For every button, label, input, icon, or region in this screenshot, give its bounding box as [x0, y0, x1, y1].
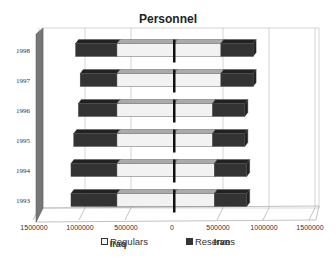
bar-iran-reserves-top	[214, 160, 249, 164]
bar-iran-regulars-top	[174, 70, 224, 74]
bar-iran-reserves	[214, 164, 246, 177]
bar-iran-regulars-top	[174, 160, 217, 164]
x-tick-label: 0	[170, 224, 174, 231]
center-axis-segment	[173, 100, 176, 123]
bar-iran-reserves	[221, 74, 253, 87]
center-axis-segment	[173, 130, 176, 153]
x-tick-label: 500000	[114, 224, 137, 231]
bar-iraq-regulars-top	[117, 70, 177, 74]
center-axis-segment	[173, 160, 176, 183]
x-tick-label: 1500000	[296, 224, 323, 231]
bar-iran-reserves-top	[213, 130, 248, 134]
bar-iraq-reserves	[71, 164, 117, 177]
bar-iran-reserves	[214, 194, 246, 207]
bar-iran-regulars	[174, 164, 214, 177]
center-axis-segment	[173, 40, 176, 63]
bar-iraq-regulars-top	[117, 160, 177, 164]
year-label: 1994	[16, 167, 31, 175]
bar-iraq-regulars-top	[117, 40, 177, 44]
bar-iraq-reserves	[80, 74, 117, 87]
center-axis-segment	[173, 190, 176, 213]
bar-iraq-reserves-top	[71, 190, 120, 194]
regulars-swatch-icon	[101, 238, 108, 245]
tick-mark	[263, 208, 269, 220]
year-label: 1995	[16, 137, 31, 145]
tick-mark	[125, 208, 131, 220]
x-tick-label: 1000000	[250, 224, 277, 231]
bar-iran-reserves-top	[214, 190, 249, 194]
year-label: 1993	[16, 197, 31, 205]
year-label: 1996	[16, 107, 31, 115]
legend-label-reserves: Reserves	[195, 236, 235, 247]
bar-iraq-reserves-top	[78, 100, 120, 104]
bar-iran-regulars	[174, 44, 221, 57]
bar-iraq-reserves-top	[71, 160, 120, 164]
year-label: 1998	[16, 47, 31, 55]
bar-iran-regulars	[174, 194, 214, 207]
bar-iraq-regulars-top	[117, 190, 177, 194]
tick-mark	[217, 208, 223, 220]
reserves-swatch-icon	[186, 238, 193, 245]
bar-iran-reserves-top	[221, 40, 256, 44]
bar-iran-regulars	[174, 74, 221, 87]
bar-iraq-reserves-top	[76, 40, 120, 44]
x-tick-label: 1000000	[66, 224, 93, 231]
bar-iran-regulars-top	[174, 130, 216, 134]
bar-iran-reserves	[221, 44, 253, 57]
bar-iraq-regulars-top	[117, 130, 177, 134]
bar-iran-regulars-top	[174, 40, 224, 44]
chart-plot: 1993199419951996199719981500000100000050…	[0, 0, 336, 273]
x-tick-label: 500000	[206, 224, 229, 231]
tick-mark	[79, 208, 85, 220]
chart-legend: Regulars Reserves	[0, 236, 336, 247]
year-label: 1997	[16, 77, 31, 85]
bar-iraq-regulars	[117, 104, 174, 117]
bar-iraq-reserves-top	[80, 70, 120, 74]
bar-iraq-regulars	[117, 194, 174, 207]
bar-iraq-reserves-top	[74, 130, 120, 134]
bar-iran-regulars-top	[174, 100, 216, 104]
center-axis-segment	[173, 70, 176, 93]
bar-iraq-regulars	[117, 44, 174, 57]
bar-iran-reserves	[213, 134, 245, 147]
bar-iran-regulars	[174, 134, 213, 147]
legend-item-regulars: Regulars	[101, 236, 148, 247]
bar-iraq-regulars	[117, 134, 174, 147]
bar-iran-reserves-top	[213, 100, 248, 104]
bar-iran-regulars	[174, 104, 213, 117]
bar-iraq-reserves	[78, 104, 117, 117]
bar-iraq-regulars	[117, 164, 174, 177]
bar-iraq-reserves	[74, 134, 117, 147]
bar-iran-reserves-top	[221, 70, 256, 74]
bar-iran-reserves	[213, 104, 245, 117]
plot-left-wall	[36, 28, 43, 222]
tick-mark	[309, 208, 315, 220]
bar-iraq-reserves	[71, 194, 117, 207]
legend-label-regulars: Regulars	[110, 236, 148, 247]
x-tick-label: 1500000	[20, 224, 47, 231]
plot-floor	[36, 206, 319, 222]
bar-iraq-reserves	[76, 44, 117, 57]
bar-iran-regulars-top	[174, 190, 217, 194]
bar-iraq-regulars-top	[117, 100, 177, 104]
bar-iraq-regulars	[117, 74, 174, 87]
legend-item-reserves: Reserves	[186, 236, 235, 247]
